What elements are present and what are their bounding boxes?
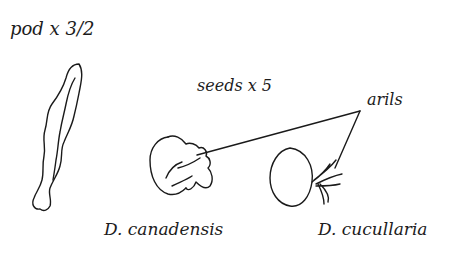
- seed-cucullaria-drawing: [270, 148, 342, 206]
- pod-drawing: [33, 64, 82, 210]
- illustration-canvas: [0, 0, 460, 258]
- aril-pointer-lines: [197, 111, 360, 168]
- seed-canadensis-drawing: [150, 136, 212, 195]
